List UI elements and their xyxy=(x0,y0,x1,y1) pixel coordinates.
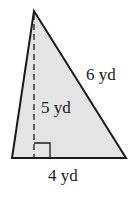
triangle xyxy=(12,11,126,158)
triangle-diagram: 6 yd 5 yd 4 yd xyxy=(0,0,139,223)
side-label: 6 yd xyxy=(86,65,116,84)
base-label: 4 yd xyxy=(48,166,78,185)
height-label: 5 yd xyxy=(41,98,71,117)
